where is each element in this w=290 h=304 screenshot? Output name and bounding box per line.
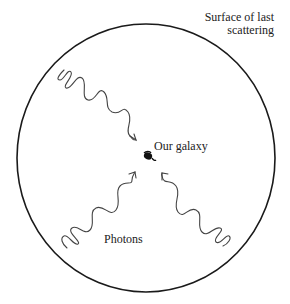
photon-wave-top-left	[58, 70, 136, 140]
surface-label-line2: scattering	[190, 24, 274, 37]
galaxy-label: Our galaxy	[154, 140, 208, 153]
diagram-canvas	[0, 0, 290, 304]
photon-wave-bottom-right	[162, 173, 230, 246]
photons-label: Photons	[104, 233, 143, 246]
surface-label: Surface of last scattering	[190, 11, 274, 37]
